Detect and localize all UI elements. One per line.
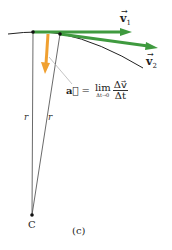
point-2 xyxy=(58,32,62,36)
center-point xyxy=(30,213,34,217)
v2-label: v→2 xyxy=(146,56,157,70)
equation-fraction: Δv⃗ Δt xyxy=(113,80,128,101)
acceleration-equation: a⃗ = lim Δt→0 Δv⃗ Δt xyxy=(66,80,128,101)
equation-equals: = xyxy=(81,86,89,96)
vector-arrow-icon: → xyxy=(147,50,154,58)
diagram-canvas xyxy=(0,0,172,250)
v1-subscript: 1 xyxy=(126,19,130,27)
radius-line-1 xyxy=(32,32,33,215)
radius-label-1: r xyxy=(24,113,28,122)
fraction-denominator: Δt xyxy=(115,91,126,101)
limit-subscript: Δt→0 xyxy=(96,93,109,98)
acceleration-arrow xyxy=(46,34,48,64)
point-1 xyxy=(31,30,35,34)
velocity-v2-arrow xyxy=(60,34,148,46)
velocity-v1-arrowhead xyxy=(120,28,132,36)
v2-subscript: 2 xyxy=(152,62,156,70)
acceleration-arrowhead xyxy=(41,62,50,74)
equation-lhs: a⃗ xyxy=(66,86,78,96)
center-label: C xyxy=(28,220,36,230)
equation-limit: lim Δt→0 xyxy=(95,83,111,98)
v1-label: v→1 xyxy=(120,13,131,27)
radius-label-2: r xyxy=(48,113,52,122)
vector-arrow-icon: → xyxy=(121,7,128,15)
panel-label: (c) xyxy=(72,226,85,236)
